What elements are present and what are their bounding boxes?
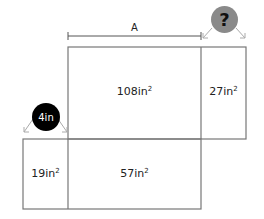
known-width-label: 4in (38, 112, 53, 123)
question-mark-icon: ? (219, 9, 229, 30)
region-bottom-left: 19in2 (23, 168, 68, 180)
region-bottom-right: 57in2 (68, 168, 201, 180)
unknown-marker-circle: ? (211, 6, 238, 33)
known-marker-circle: 4in (32, 103, 60, 131)
dimension-a-label: A (131, 22, 138, 33)
region-top-left: 108in2 (68, 86, 201, 98)
dimension-a-line (68, 32, 201, 40)
region-top-right: 27in2 (201, 86, 246, 98)
